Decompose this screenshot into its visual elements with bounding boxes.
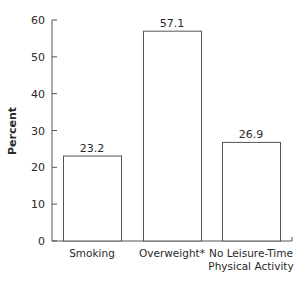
bar — [223, 142, 281, 241]
y-tick-label: 0 — [38, 235, 45, 248]
category-label: Physical Activity — [208, 260, 293, 272]
bar-chart: 0102030405060 23.257.126.9 SmokingOverwe… — [0, 0, 306, 286]
y-tick-label: 60 — [31, 14, 45, 27]
data-label: 23.2 — [80, 142, 105, 155]
category-labels: SmokingOverweight*No Leisure-TimePhysica… — [69, 247, 293, 272]
y-tick-label: 20 — [31, 161, 45, 174]
y-axis-label: Percent — [6, 107, 19, 155]
y-tick-label: 10 — [31, 198, 45, 211]
category-label: Overweight* — [139, 247, 205, 259]
bar — [64, 156, 122, 241]
y-ticks: 0102030405060 — [31, 14, 57, 248]
category-label: No Leisure-Time — [209, 247, 293, 259]
bar — [144, 31, 202, 241]
category-label: Smoking — [69, 247, 115, 259]
y-tick-label: 50 — [31, 51, 45, 64]
data-label: 57.1 — [160, 17, 185, 30]
data-label: 26.9 — [239, 128, 264, 141]
y-tick-label: 30 — [31, 125, 45, 138]
y-tick-label: 40 — [31, 88, 45, 101]
